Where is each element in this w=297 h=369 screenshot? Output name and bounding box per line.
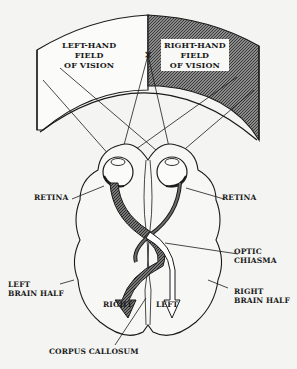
fixation-mark: × — [144, 49, 152, 60]
left-brain-half-line1: LEFT — [8, 280, 64, 289]
left-brain-half-label: LEFT BRAIN HALF — [8, 280, 64, 298]
optic-chiasma-line1: OPTIC — [234, 247, 277, 256]
retina-left-label: RETINA — [34, 193, 68, 202]
optic-chiasma-line2: CHIASMA — [234, 256, 277, 265]
left-field-label-line3: OF VISION — [62, 60, 116, 70]
left-field-label-line1: LEFT-HAND — [62, 40, 116, 50]
arrow-left-label: LEFT — [156, 300, 178, 309]
left-brain-half-line2: BRAIN HALF — [8, 289, 64, 298]
visual-pathway-diagram: × — [0, 0, 297, 369]
optic-chiasma-label: OPTIC CHIASMA — [234, 247, 277, 265]
left-field-label-line2: FIELD — [62, 50, 116, 60]
right-field-label-line2: FIELD — [164, 50, 226, 60]
right-brain-half-label: RIGHT BRAIN HALF — [234, 287, 290, 305]
right-brain-half-line1: RIGHT — [234, 287, 290, 296]
right-field-label-line3: OF VISION — [164, 60, 226, 70]
left-visual-field — [37, 15, 148, 130]
right-field-label-line1: RIGHT-HAND — [164, 40, 226, 50]
left-field-label: LEFT-HAND FIELD OF VISION — [62, 40, 116, 70]
corpus-callosum-label: CORPUS CALLOSUM — [49, 347, 139, 356]
arrow-right-label: RIGHT — [103, 300, 132, 309]
retina-right-label: RETINA — [222, 193, 256, 202]
right-visual-field — [148, 15, 259, 140]
right-brain-half-line2: BRAIN HALF — [234, 296, 290, 305]
right-eye — [157, 157, 187, 187]
right-field-label: RIGHT-HAND FIELD OF VISION — [161, 39, 229, 71]
